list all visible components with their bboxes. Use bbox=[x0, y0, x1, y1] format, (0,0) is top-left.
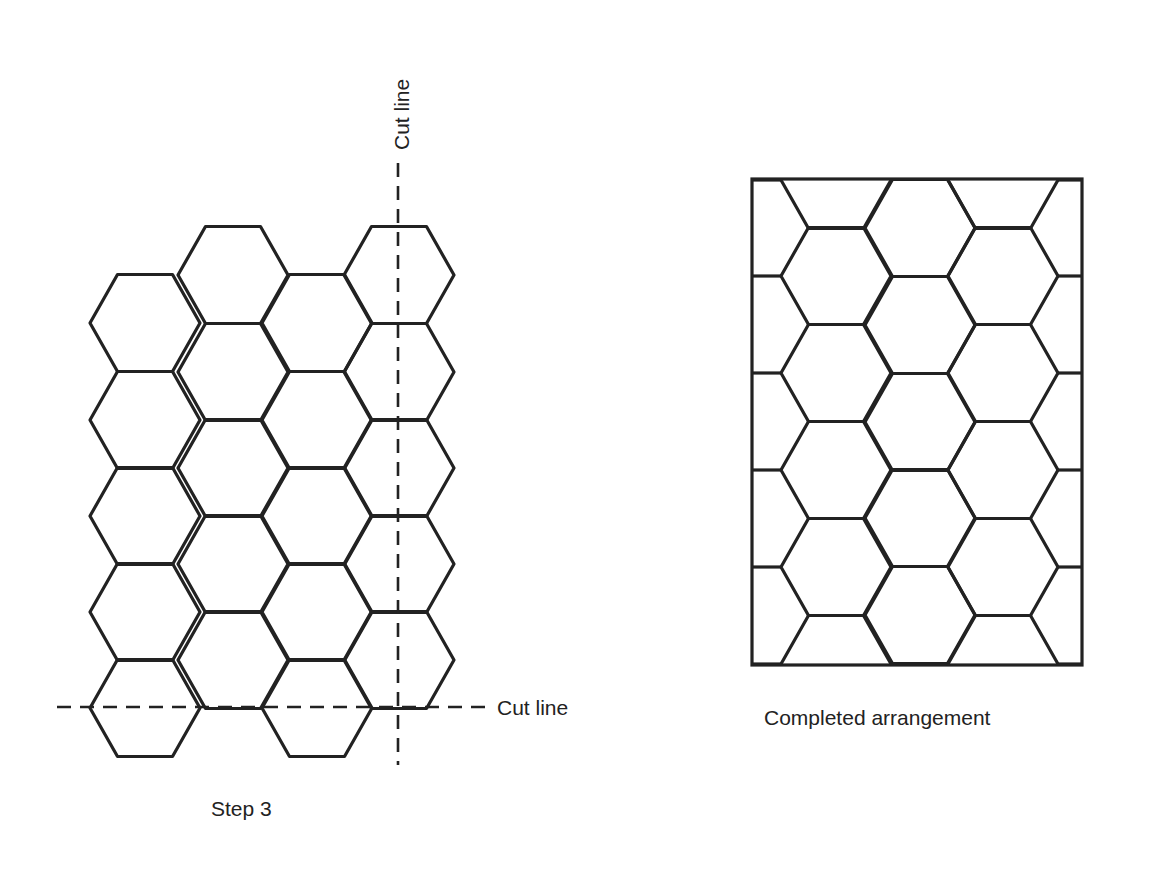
hexagon bbox=[948, 422, 1058, 519]
hexagon bbox=[90, 564, 200, 661]
hexagon bbox=[90, 468, 200, 565]
hexagon bbox=[948, 228, 1058, 325]
step3-caption: Step 3 bbox=[211, 797, 272, 821]
vertical-cut-line-label: Cut line bbox=[390, 79, 414, 150]
hexagon bbox=[948, 519, 1058, 616]
completed-hexagon-grid bbox=[752, 132, 1082, 713]
hexagon bbox=[948, 325, 1058, 422]
completed-arrangement-caption: Completed arrangement bbox=[764, 706, 990, 730]
diagram-canvas bbox=[0, 0, 1153, 870]
cut-lines bbox=[57, 163, 486, 765]
hexagon bbox=[90, 372, 200, 469]
horizontal-cut-line-label: Cut line bbox=[497, 696, 568, 720]
hexagon bbox=[90, 275, 200, 372]
step3-hexagon-grid bbox=[90, 227, 454, 757]
